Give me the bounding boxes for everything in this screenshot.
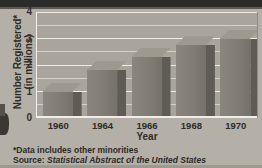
bar-front-face bbox=[87, 69, 117, 118]
source-line: Source: Statistical Abstract of the Unit… bbox=[13, 155, 258, 165]
bar bbox=[176, 36, 215, 118]
x-tick-label: 1968 bbox=[169, 120, 213, 131]
x-tick-label: 1964 bbox=[80, 120, 124, 131]
bar bbox=[87, 61, 126, 118]
bar-front-face bbox=[132, 56, 162, 118]
chart-notes: *Data includes other minorities Source: … bbox=[13, 145, 258, 165]
bar-side-face bbox=[206, 45, 215, 118]
bar-side-face bbox=[73, 92, 82, 119]
bar-side-face bbox=[162, 57, 171, 118]
bar-top-face bbox=[87, 61, 126, 70]
bar-side-face bbox=[250, 39, 257, 119]
y-tick-label: 1 bbox=[0, 86, 32, 97]
bar-front-face bbox=[176, 44, 206, 118]
plot-canvas bbox=[37, 12, 257, 118]
bar-chart-plot-area bbox=[36, 12, 258, 118]
bar bbox=[132, 48, 171, 118]
bar-top-face bbox=[220, 30, 257, 39]
bar-top-face bbox=[43, 83, 82, 92]
x-tick-label: 1970 bbox=[214, 120, 258, 131]
bar-side-face bbox=[117, 70, 126, 118]
page-bottom-edge bbox=[0, 165, 262, 168]
bar-series bbox=[37, 12, 257, 118]
bar bbox=[43, 83, 82, 119]
bar-top-face bbox=[176, 36, 215, 45]
y-tick-label: 3 bbox=[0, 33, 32, 44]
scanned-page-background: Number Registered* (in millions) 4 3 2 1… bbox=[0, 0, 262, 168]
x-tick-label: 1960 bbox=[36, 120, 80, 131]
y-tick-label: 0 bbox=[0, 112, 32, 123]
source-prefix: Source: bbox=[13, 155, 47, 165]
x-axis-baseline bbox=[37, 116, 257, 118]
bar bbox=[220, 30, 257, 119]
bar-front-face bbox=[220, 38, 250, 119]
source-title: Statistical Abstract of the United State… bbox=[47, 155, 206, 165]
footnote-text: *Data includes other minorities bbox=[13, 145, 258, 155]
bar-top-face bbox=[132, 48, 171, 57]
bar-front-face bbox=[43, 91, 73, 119]
y-axis-tick-labels: 4 3 2 1 0 bbox=[0, 0, 36, 168]
y-tick-label: 4 bbox=[0, 6, 32, 17]
x-tick-label: 1966 bbox=[125, 120, 169, 131]
x-axis-title: Year bbox=[36, 131, 258, 142]
y-tick-label: 2 bbox=[0, 59, 32, 70]
